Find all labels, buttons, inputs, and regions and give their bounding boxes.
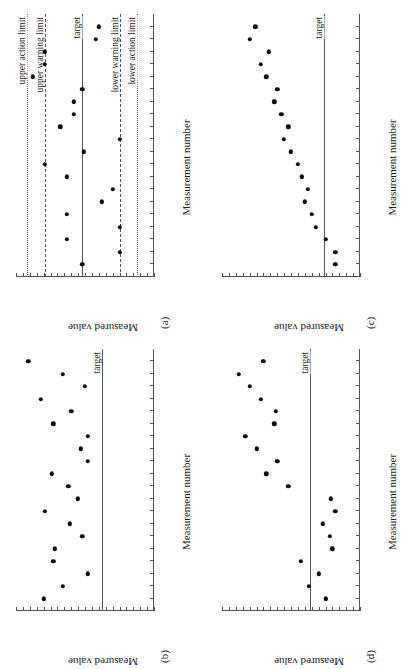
x-axis-tick xyxy=(150,263,154,264)
panel-d-x-axis-label: Measurement number xyxy=(387,335,398,669)
panel-a-chart: upper action limitupper warning limittar… xyxy=(0,0,206,335)
data-point xyxy=(298,559,302,563)
data-point xyxy=(264,74,268,78)
data-point xyxy=(296,162,300,166)
y-axis-tick xyxy=(277,273,278,277)
y-axis-tick xyxy=(312,607,313,611)
y-axis-tick xyxy=(106,273,107,277)
data-point xyxy=(303,200,307,204)
data-point xyxy=(41,596,45,600)
x-axis-tick xyxy=(356,360,360,361)
data-point xyxy=(76,497,80,501)
x-axis-tick xyxy=(356,573,360,574)
data-point xyxy=(50,472,54,476)
panel-a-y-axis-label: Measured value xyxy=(68,322,138,333)
x-axis-tick xyxy=(356,435,360,436)
refline-lower-action-limit xyxy=(137,14,138,277)
y-axis-tick xyxy=(360,273,361,277)
x-axis-tick xyxy=(356,251,360,252)
x-axis-tick xyxy=(150,498,154,499)
y-axis-tick xyxy=(284,273,285,277)
data-point xyxy=(80,87,84,91)
x-axis-tick xyxy=(150,435,154,436)
x-axis-tick xyxy=(356,398,360,399)
data-point xyxy=(274,409,278,413)
x-axis-tick xyxy=(150,176,154,177)
y-axis-tick xyxy=(326,273,327,277)
x-axis-tick xyxy=(356,598,360,599)
x-axis-tick xyxy=(356,151,360,152)
data-point xyxy=(68,521,72,525)
data-point xyxy=(258,62,262,66)
data-point xyxy=(323,237,327,241)
refline-label-target: target xyxy=(301,351,311,374)
y-axis-tick xyxy=(71,607,72,611)
data-point xyxy=(330,546,334,550)
refline-target xyxy=(82,14,83,277)
y-axis-tick xyxy=(113,273,114,277)
x-axis-tick xyxy=(150,560,154,561)
data-point xyxy=(43,509,47,513)
x-axis-tick xyxy=(356,51,360,52)
x-axis-tick xyxy=(150,448,154,449)
panel-c-x-axis-label: Measurement number xyxy=(387,0,398,335)
y-axis-tick xyxy=(92,607,93,611)
x-axis-tick xyxy=(150,188,154,189)
panel-c-y-axis-label: Measured value xyxy=(274,322,344,333)
data-point xyxy=(253,24,257,28)
y-axis-tick xyxy=(71,273,72,277)
refline-label-upper-warning-limit: upper warning limit xyxy=(35,16,45,93)
y-axis-tick xyxy=(298,273,299,277)
panel-b-y-axis-label: Measured value xyxy=(68,656,138,667)
x-axis-tick xyxy=(150,598,154,599)
x-axis-tick xyxy=(150,460,154,461)
y-axis-tick xyxy=(298,607,299,611)
y-axis-tick xyxy=(326,607,327,611)
panel-d-chart: target Measurement number Measured value… xyxy=(206,335,412,669)
data-point xyxy=(327,534,331,538)
data-point xyxy=(264,472,268,476)
x-axis-tick xyxy=(150,548,154,549)
x-axis-tick xyxy=(150,251,154,252)
y-axis-tick xyxy=(51,607,52,611)
y-axis-tick xyxy=(353,273,354,277)
y-axis-tick xyxy=(236,607,237,611)
x-axis-tick xyxy=(356,585,360,586)
y-axis-tick xyxy=(312,273,313,277)
data-point xyxy=(65,212,69,216)
x-axis-tick xyxy=(150,26,154,27)
y-axis-tick xyxy=(291,273,292,277)
data-point xyxy=(282,137,286,141)
x-axis-tick xyxy=(356,126,360,127)
y-axis-tick xyxy=(120,607,121,611)
panel-c-plot-area: target xyxy=(222,14,360,277)
y-axis-tick xyxy=(319,273,320,277)
y-axis-tick xyxy=(332,273,333,277)
refline-label-target: target xyxy=(315,16,325,39)
x-axis-tick xyxy=(356,176,360,177)
y-axis-tick xyxy=(236,273,237,277)
y-axis-tick xyxy=(229,273,230,277)
x-axis-tick xyxy=(356,188,360,189)
data-point xyxy=(65,175,69,179)
data-point xyxy=(110,187,114,191)
y-axis-tick xyxy=(99,607,100,611)
y-axis-tick xyxy=(284,607,285,611)
y-axis-tick xyxy=(37,607,38,611)
x-axis-tick xyxy=(356,485,360,486)
panel-b-x-axis-label: Measurement number xyxy=(181,335,192,669)
y-axis-tick xyxy=(243,273,244,277)
y-axis-tick xyxy=(140,607,141,611)
y-axis-tick xyxy=(78,273,79,277)
data-point xyxy=(258,397,262,401)
panel-a-plot-area: upper action limitupper warning limittar… xyxy=(16,14,154,277)
data-point xyxy=(321,521,325,525)
data-point xyxy=(314,225,318,229)
x-axis-tick xyxy=(150,126,154,127)
refline-label-target: target xyxy=(92,351,102,374)
data-point xyxy=(69,409,73,413)
y-axis-tick xyxy=(85,273,86,277)
data-point xyxy=(329,497,333,501)
refline-label-target: target xyxy=(73,16,83,39)
x-axis-tick xyxy=(356,138,360,139)
